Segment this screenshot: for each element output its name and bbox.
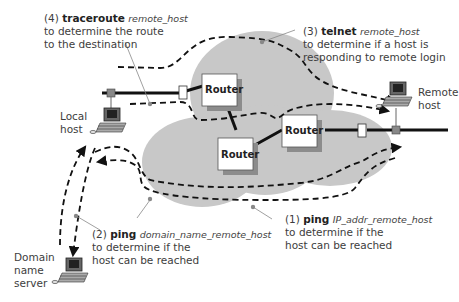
annotation-telnet: (3) telnet remote_host to determine if a… [303,25,446,64]
local-host-computer [90,108,126,134]
interface-port [179,86,187,99]
remote-host-label: Remotehost [418,86,459,112]
dns-server-computer [52,258,88,284]
router-label: Router [285,125,323,136]
annotation-ping-ip: (1) ping IP_addr_remote_host to determin… [285,213,432,252]
annotation-ping-domain: (2) ping domain_name_remote_host to dete… [92,228,271,267]
remote-host-computer [376,82,412,108]
router-label: Router [205,84,243,95]
local-host-label: Localhost [60,110,87,136]
dns-server-label: Domainnameserver [14,251,55,290]
remote-tap [392,126,400,134]
annotation-traceroute: (4) traceroute remote_host to determine … [44,12,188,51]
local-tap [107,89,115,97]
router-label: Router [221,149,259,160]
interface-port [358,124,366,137]
